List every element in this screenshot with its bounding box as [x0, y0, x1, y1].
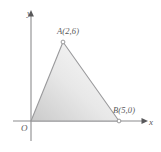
x-axis-label: x — [149, 118, 153, 127]
vertex-marker-b — [117, 119, 121, 123]
x-axis-arrowhead-icon — [142, 118, 149, 124]
vertex-marker-a — [61, 40, 65, 44]
point-label-b: B(5,0) — [113, 106, 135, 115]
coordinate-plane-figure: y x O A(2,6) B(5,0) — [0, 0, 161, 152]
triangle-oab — [31, 42, 119, 121]
y-axis-label: y — [27, 9, 31, 18]
point-label-a: A(2,6) — [57, 27, 79, 36]
origin-label: O — [21, 124, 28, 133]
